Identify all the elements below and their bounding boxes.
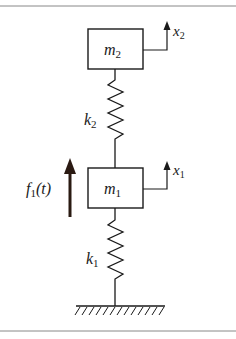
x2-displacement-arrow — [143, 28, 167, 50]
spring-k1-label: k1 — [86, 250, 99, 269]
spring-k2-label: k2 — [84, 111, 97, 130]
spring-k2 — [108, 69, 123, 168]
x1-displacement-arrow — [143, 168, 167, 189]
x2-arrowhead-icon — [164, 21, 171, 30]
spring-k1 — [108, 208, 123, 306]
x1-label: x1 — [172, 162, 185, 180]
spring-mass-diagram: m2 x2 k2 m1 x1 f1(t) k1 — [0, 0, 236, 339]
force-arrowhead-icon — [64, 158, 76, 174]
ground-support-icon — [75, 306, 165, 315]
force-label: f1(t) — [26, 180, 51, 199]
x1-arrowhead-icon — [164, 161, 171, 170]
x2-label: x2 — [172, 23, 185, 41]
